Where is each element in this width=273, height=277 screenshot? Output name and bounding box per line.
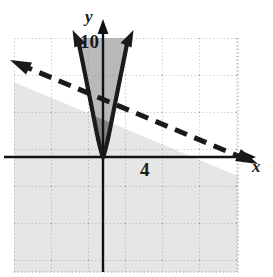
y-tick-label-10: 10 [80,32,99,51]
graph-figure: y x 10 4 [0,0,273,277]
x-tick-label-4: 4 [140,160,150,179]
grid-lines [14,38,238,272]
x-axis-label: x [252,158,261,175]
graph-canvas [0,0,273,277]
y-axis-label: y [85,8,93,25]
